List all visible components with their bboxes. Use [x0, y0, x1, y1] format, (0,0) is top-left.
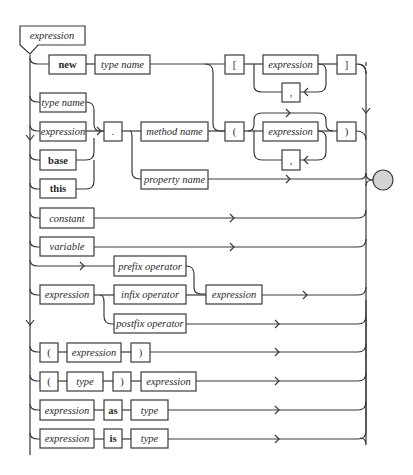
svg-text:[: [ [233, 59, 237, 70]
svg-text:expression: expression [72, 347, 117, 358]
svg-text:(: ( [233, 126, 237, 138]
svg-text:): ) [120, 376, 124, 388]
svg-text:type: type [76, 376, 94, 387]
svg-text:,: , [290, 87, 293, 98]
svg-text:type: type [141, 405, 159, 416]
svg-text:.: . [112, 126, 115, 137]
new-keyword-box: new [49, 55, 86, 74]
svg-text:expression: expression [268, 126, 313, 137]
svg-text:expression: expression [41, 126, 86, 137]
paren-close-box: ) [337, 122, 356, 141]
receiver-type-name-box: type name [40, 93, 86, 112]
bracket-expression-box: expression [263, 55, 318, 74]
receiver-base-box: base [40, 150, 76, 170]
svg-text:expression: expression [45, 433, 90, 444]
svg-text:]: ] [345, 59, 349, 70]
svg-text:is: is [109, 433, 116, 444]
svg-text:expression: expression [268, 59, 313, 70]
svg-text:(: ( [47, 347, 51, 359]
svg-text:this: this [50, 183, 66, 194]
svg-text:,: , [290, 155, 293, 166]
svg-text:as: as [108, 405, 117, 416]
svg-text:expression: expression [45, 405, 90, 416]
as-expression-box: expression [40, 400, 94, 420]
svg-text:method name: method name [146, 126, 203, 137]
postfix-operator-box: postfix operator [114, 314, 186, 333]
prefix-operator-box: prefix operator [114, 256, 186, 276]
svg-text:expression: expression [146, 376, 191, 387]
group-expression-box: expression [67, 343, 121, 362]
as-type-box: type [131, 400, 168, 420]
svg-text:expression: expression [45, 289, 90, 300]
infix-operator-box: infix operator [114, 285, 186, 304]
bracket-comma-box: , [282, 83, 300, 102]
paren-open-box: ( [225, 122, 244, 141]
syntax-diagram: expression new type name [ expression ] … [0, 0, 413, 475]
svg-text:property name: property name [143, 174, 205, 185]
svg-text:type: type [141, 433, 159, 444]
is-keyword-box: is [104, 429, 122, 448]
end-terminal-icon [373, 170, 393, 190]
receiver-expression-box: expression [40, 122, 86, 141]
svg-text:base: base [48, 155, 68, 166]
variable-box: variable [40, 237, 94, 256]
svg-text:type name: type name [101, 59, 144, 70]
property-name-box: property name [141, 170, 208, 189]
svg-text:infix operator: infix operator [121, 289, 180, 300]
is-expression-box: expression [40, 429, 94, 448]
operand-right-expression-box: expression [206, 285, 262, 304]
svg-text:variable: variable [50, 241, 85, 252]
group-close-paren-box: ) [131, 343, 150, 362]
group-open-paren-box: ( [40, 343, 58, 362]
operand-left-expression-box: expression [40, 285, 94, 304]
dot-box: . [104, 122, 122, 141]
svg-text:type name: type name [42, 97, 85, 108]
svg-text:constant: constant [49, 213, 86, 224]
svg-text:new: new [58, 59, 77, 70]
svg-text:(: ( [47, 376, 51, 388]
cast-close-paren-box: ) [113, 372, 131, 391]
cast-open-paren-box: ( [40, 372, 58, 391]
svg-text:): ) [139, 347, 143, 359]
svg-text:prefix operator: prefix operator [117, 261, 182, 272]
constant-box: constant [40, 208, 94, 228]
svg-text:): ) [345, 126, 349, 138]
cast-type-box: type [67, 372, 103, 391]
new-type-name-box: type name [95, 55, 150, 74]
title-label: expression [30, 30, 75, 41]
right-rail [358, 62, 366, 445]
method-name-box: method name [141, 122, 208, 141]
bracket-open-box: [ [225, 55, 244, 74]
cast-expression-box: expression [141, 372, 196, 391]
paren-expression-box: expression [263, 122, 318, 141]
receiver-this-box: this [40, 179, 76, 198]
is-type-box: type [131, 429, 168, 448]
as-keyword-box: as [104, 400, 122, 420]
svg-text:postfix operator: postfix operator [115, 318, 184, 329]
svg-text:expression: expression [212, 289, 257, 300]
paren-comma-box: , [282, 150, 300, 170]
bracket-close-box: ] [337, 55, 356, 74]
